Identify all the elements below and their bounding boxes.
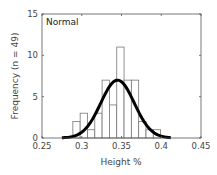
histogram-bar xyxy=(87,130,94,138)
histogram-chart: 051015 0.250.30.350.40.45 Normal Height … xyxy=(0,0,217,175)
x-tick-label: 0.4 xyxy=(154,141,168,151)
y-tick-label: 10 xyxy=(27,50,38,60)
y-axis-label: Frequency (n = 49) xyxy=(10,33,20,120)
x-tick-label: 0.3 xyxy=(75,141,89,151)
y-tick-label: 5 xyxy=(33,92,38,102)
histogram-bar xyxy=(95,113,102,138)
x-tick-label: 0.25 xyxy=(33,141,52,151)
histogram-bar xyxy=(109,105,116,138)
histogram-bar xyxy=(117,47,124,138)
x-tick-label: 0.35 xyxy=(112,141,131,151)
legend-annotation: Normal xyxy=(46,17,79,27)
x-axis-label: Height % xyxy=(100,157,142,167)
y-tick-label: 15 xyxy=(27,9,38,19)
x-tick-label: 0.45 xyxy=(192,141,211,151)
